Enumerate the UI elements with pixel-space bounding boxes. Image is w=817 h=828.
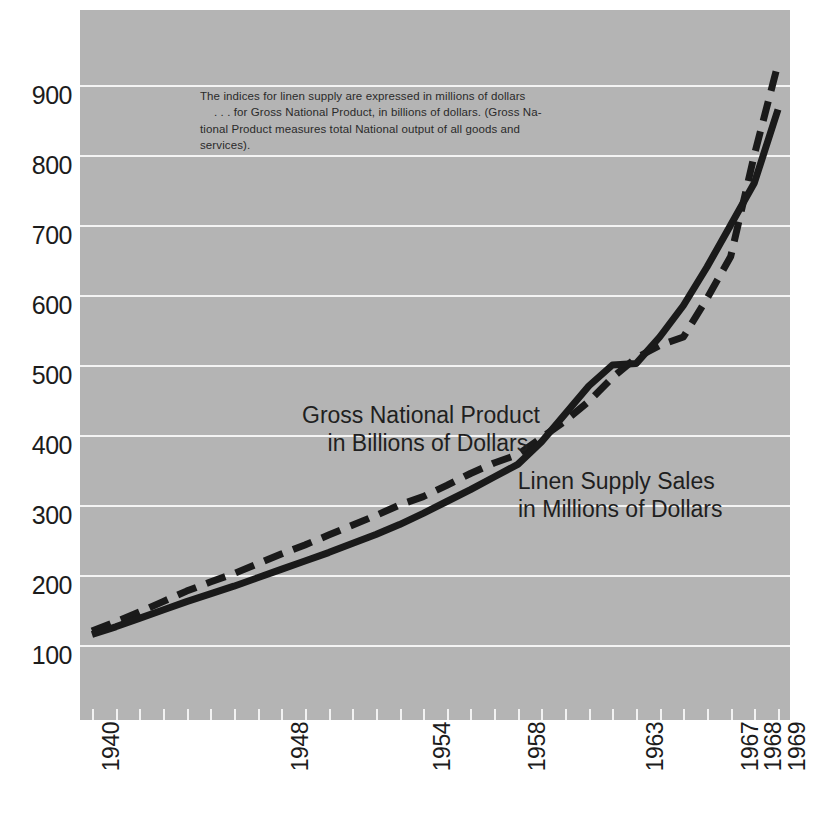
y-tick-label-200: 200 — [8, 573, 80, 598]
linen-supply-series-label-line1: Linen Supply Sales — [518, 468, 715, 494]
note-line-2: . . . for Gross National Product, in bil… — [200, 104, 620, 120]
x-axis: 19401948195419581963196719681969 — [80, 722, 790, 828]
y-tick-label-600: 600 — [8, 293, 80, 318]
x-tick-label-1954: 1954 — [431, 722, 454, 771]
x-tick-label-1969: 1969 — [786, 722, 809, 771]
chart-note: The indices for linen supply are express… — [200, 88, 620, 153]
y-tick-label-900: 900 — [8, 83, 80, 108]
y-tick-label-400: 400 — [8, 433, 80, 458]
x-tick-label-1967: 1967 — [739, 722, 762, 771]
plot-area: The indices for linen supply are express… — [80, 10, 790, 720]
gnp-series-label-line2: in Billions of Dollars — [302, 429, 540, 457]
y-tick-label-500: 500 — [8, 363, 80, 388]
x-tick-label-1948: 1948 — [289, 722, 312, 771]
x-tick-label-1968: 1968 — [762, 722, 785, 771]
chart-figure: 100200300400500600700800900 The indices … — [0, 0, 817, 828]
x-tick-label-1940: 1940 — [100, 722, 123, 771]
y-axis: 100200300400500600700800900 — [0, 10, 80, 720]
y-tick-label-800: 800 — [8, 153, 80, 178]
y-tick-label-300: 300 — [8, 503, 80, 528]
y-tick-label-100: 100 — [8, 643, 80, 668]
linen-supply-series-line — [92, 110, 778, 635]
gnp-series-label-line1: Gross National Product — [302, 402, 540, 428]
x-tick-label-1963: 1963 — [644, 722, 667, 771]
x-tick-label-1958: 1958 — [526, 722, 549, 771]
note-line-4: services). — [200, 137, 620, 153]
linen-supply-series-label: Linen Supply Sales in Millions of Dollar… — [510, 467, 723, 523]
linen-supply-series-label-line2: in Millions of Dollars — [510, 495, 723, 523]
note-line-1: The indices for linen supply are express… — [200, 88, 620, 104]
note-line-3: tional Product measures total National o… — [200, 121, 620, 137]
y-tick-label-700: 700 — [8, 223, 80, 248]
gnp-series-label: Gross National Product in Billions of Do… — [302, 401, 540, 457]
